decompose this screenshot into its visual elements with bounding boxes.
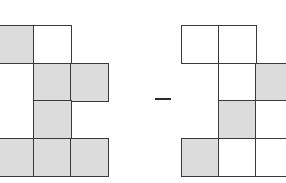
left-cell-r3-c2-shaded bbox=[70, 138, 109, 177]
right-cell-r3-c1-unshaded bbox=[218, 138, 257, 177]
minus-sign-icon bbox=[155, 98, 171, 100]
right-cell-r2-c1-shaded bbox=[218, 100, 257, 139]
left-cell-r1-c2-shaded bbox=[70, 63, 109, 102]
left-cell-r3-c1-shaded bbox=[33, 138, 72, 177]
right-cell-r1-c1-unshaded bbox=[218, 63, 257, 102]
left-cell-r1-c1-shaded bbox=[33, 63, 72, 102]
right-cell-r3-c0-shaded bbox=[181, 138, 220, 177]
left-cell-r2-c1-shaded bbox=[33, 100, 72, 139]
right-cell-r0-c0-unshaded bbox=[181, 25, 220, 64]
left-cell-r0-c1-unshaded bbox=[33, 25, 72, 64]
right-cell-r0-c1-unshaded bbox=[218, 25, 257, 64]
right-cell-r2-c2-unshaded bbox=[255, 100, 286, 139]
left-cell-r3-c0-shaded bbox=[0, 138, 35, 177]
right-cell-r1-c2-shaded bbox=[255, 63, 286, 102]
left-cell-r0-c0-shaded bbox=[0, 25, 35, 64]
figure-canvas bbox=[0, 0, 286, 183]
right-cell-r3-c2-unshaded bbox=[255, 138, 286, 177]
